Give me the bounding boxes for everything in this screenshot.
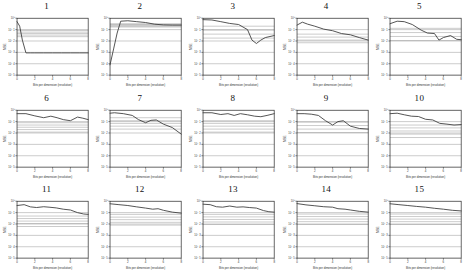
y-tick-label: 10⁻2 [381,131,388,135]
y-tick-label: 10⁻3 [102,142,109,146]
x-axis-label: Bits per dimension (resolution) [313,266,352,270]
y-tick-label: 10⁻1 [381,28,388,32]
x-axis-label: Bits per dimension (resolution) [33,266,72,270]
y-tick-label: 10⁻5 [381,165,388,169]
x-tick-label: 6 [349,169,351,173]
x-axis-label: Bits per dimension (resolution) [219,175,258,179]
chart-panel: 110246810⁻510⁻410⁻310⁻210⁻110⁰MSEBits pe… [0,183,93,275]
data-series-line [203,20,274,44]
x-tick-label: 8 [367,169,369,173]
x-tick-label: 0 [109,77,111,81]
y-tick-label: 10⁻3 [8,234,15,238]
y-tick-label: 10⁻4 [288,153,295,157]
x-tick-label: 2 [314,77,316,81]
y-axis-label: MSE [283,43,287,50]
plot-frame [390,18,461,75]
y-axis-label: MSE [189,227,193,234]
y-tick-label: 10⁻4 [102,62,109,66]
y-axis-label: MSE [376,43,380,50]
x-tick-label: 8 [181,261,183,265]
plot-frame [297,202,368,259]
y-tick-label: 10⁻5 [8,165,15,169]
x-tick-label: 0 [203,77,205,81]
x-tick-label: 6 [256,261,258,265]
y-tick-label: 10⁻5 [288,256,295,260]
x-tick-label: 2 [220,77,222,81]
chart-panel: 80246810⁻510⁻410⁻310⁻210⁻110⁰MSEBits per… [186,92,279,184]
y-tick-label: 10⁻1 [195,28,202,32]
y-tick-label: 10⁻3 [195,142,202,146]
x-tick-label: 6 [70,261,72,265]
plot-frame [203,18,274,75]
x-tick-label: 4 [52,77,54,81]
y-tick-label: 10⁻2 [8,39,15,43]
x-tick-label: 8 [460,169,462,173]
plot-frame [297,110,368,167]
x-axis-label: Bits per dimension (resolution) [406,266,445,270]
x-tick-label: 4 [52,169,54,173]
x-tick-label: 0 [389,77,391,81]
panel-title: 1 [44,1,49,11]
x-tick-label: 0 [16,261,18,265]
plot-area: 0246810⁻510⁻410⁻310⁻210⁻110⁰MSEBits per … [93,194,186,275]
x-tick-label: 2 [34,261,36,265]
y-tick-label: 10⁰ [104,200,109,204]
x-tick-label: 8 [460,261,462,265]
x-tick-label: 4 [331,77,333,81]
y-tick-label: 10⁻1 [195,211,202,215]
x-tick-label: 6 [442,77,444,81]
y-tick-label: 10⁻1 [381,211,388,215]
y-tick-label: 10⁻5 [195,73,202,77]
y-tick-label: 10⁻1 [102,211,109,215]
plot-area: 0246810⁻510⁻410⁻310⁻210⁻110⁰MSEBits per … [373,11,466,92]
data-series-line [390,21,461,40]
y-tick-label: 10⁻1 [381,119,388,123]
y-tick-label: 10⁻4 [8,245,15,249]
y-tick-label: 10⁻3 [288,234,295,238]
plot-area: 0246810⁻510⁻410⁻310⁻210⁻110⁰MSEBits per … [186,194,279,275]
plot-frame [110,202,181,259]
chart-panel: 130246810⁻510⁻410⁻310⁻210⁻110⁰MSEBits pe… [186,183,279,275]
x-tick-label: 4 [145,77,147,81]
plot-area: 0246810⁻510⁻410⁻310⁻210⁻110⁰MSEBits per … [0,194,93,275]
x-tick-label: 6 [70,77,72,81]
x-tick-label: 2 [127,261,129,265]
x-tick-label: 6 [163,77,165,81]
x-axis-label: Bits per dimension (resolution) [406,175,445,179]
y-tick-label: 10⁻4 [195,153,202,157]
y-tick-label: 10⁻3 [381,142,388,146]
y-tick-label: 10⁻3 [381,234,388,238]
x-axis-label: Bits per dimension (resolution) [33,83,72,87]
plot-area: 0246810⁻510⁻410⁻310⁻210⁻110⁰MSEBits per … [373,194,466,275]
data-series-line [390,113,461,125]
plot-frame [17,110,88,167]
x-axis-label: Bits per dimension (resolution) [126,175,165,179]
plot-area: 0246810⁻510⁻410⁻310⁻210⁻110⁰MSEBits per … [186,11,279,92]
plot-area: 0246810⁻510⁻410⁻310⁻210⁻110⁰MSEBits per … [0,103,93,184]
x-tick-label: 4 [145,169,147,173]
x-axis-label: Bits per dimension (resolution) [219,266,258,270]
plot-frame [17,202,88,259]
plot-frame [390,110,461,167]
y-tick-label: 10⁻5 [288,73,295,77]
y-tick-label: 10⁻1 [102,28,109,32]
y-tick-label: 10⁻3 [381,50,388,54]
chart-panel: 150246810⁻510⁻410⁻310⁻210⁻110⁰MSEBits pe… [373,183,466,275]
y-tick-label: 10⁰ [11,16,16,20]
panel-title: 13 [228,184,238,194]
y-tick-label: 10⁻4 [102,153,109,157]
chart-panel: 60246810⁻510⁻410⁻310⁻210⁻110⁰MSEBits per… [0,92,93,184]
x-tick-label: 6 [442,261,444,265]
plot-frame [17,18,88,75]
data-series-line [17,113,88,120]
y-tick-label: 10⁻4 [8,153,15,157]
x-tick-label: 0 [389,261,391,265]
x-tick-label: 2 [127,77,129,81]
data-series-line [110,204,181,213]
data-series-line [297,204,368,213]
y-tick-label: 10⁰ [290,16,295,20]
y-axis-label: MSE [96,135,100,142]
y-tick-label: 10⁻3 [102,50,109,54]
y-tick-label: 10⁻1 [8,119,15,123]
chart-panel: 70246810⁻510⁻410⁻310⁻210⁻110⁰MSEBits per… [93,92,186,184]
